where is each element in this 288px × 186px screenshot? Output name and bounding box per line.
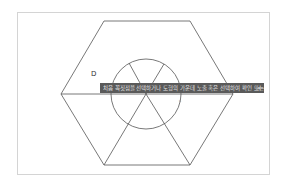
- close-icon[interactable]: ×: [256, 85, 262, 91]
- segment-center-to-bottom-right[interactable]: [146, 94, 190, 165]
- point-label-c: c: [179, 98, 181, 103]
- geometry-canvas[interactable]: c: [0, 0, 288, 186]
- tooltip-text: 처음 꼭짓점을 선택하거나 도형의 가운데 노출 혹은 선택하여 확인 또는: [103, 83, 264, 93]
- tooltip: 처음 꼭짓점을 선택하거나 도형의 가운데 노출 혹은 선택하여 확인 또는 ×: [100, 83, 264, 93]
- segment-center-to-bottom-left[interactable]: [104, 94, 146, 165]
- point-label-d: D: [91, 70, 96, 78]
